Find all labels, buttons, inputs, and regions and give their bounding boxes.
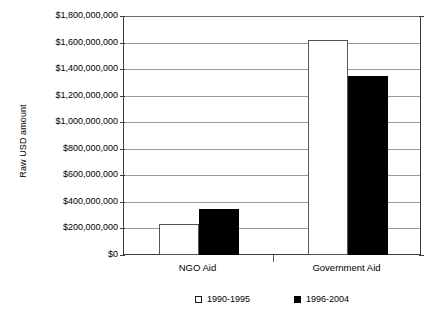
plot-frame-top <box>124 16 420 17</box>
y-axis-tick-mark <box>120 96 125 97</box>
y-axis-tick-label: $0 <box>26 250 118 259</box>
chart-legend: 1990-19951996-2004 <box>123 292 421 306</box>
legend-label: 1990-1995 <box>207 294 250 304</box>
plot-area <box>123 16 421 255</box>
bar-government-aid-1996-2004 <box>348 76 388 255</box>
bar-chart-figure: Raw USD amount $0$200,000,000$400,000,00… <box>0 0 442 317</box>
legend-label: 1996-2004 <box>306 294 349 304</box>
y-axis-tick-label: $200,000,000 <box>26 223 118 232</box>
y-axis-tick-mark <box>120 149 125 150</box>
y-axis-tick-label: $1,600,000,000 <box>26 38 118 47</box>
y-axis-tick-label: $800,000,000 <box>26 144 118 153</box>
x-axis-label-government-aid: Government Aid <box>272 262 421 273</box>
bar-government-aid-1990-1995 <box>308 40 348 255</box>
y-axis-tick-mark-right <box>419 255 424 256</box>
x-axis-category-divider <box>273 255 274 262</box>
gridline <box>124 69 420 70</box>
y-axis-tick-label: $1,800,000,000 <box>26 11 118 20</box>
y-axis-tick-mark-right <box>419 16 424 17</box>
y-axis-tick-label: $400,000,000 <box>26 197 118 206</box>
y-axis-tick-mark <box>120 43 125 44</box>
legend-swatch-icon <box>294 296 301 303</box>
y-axis-tick-label: $1,400,000,000 <box>26 64 118 73</box>
y-axis-tick-label: $1,200,000,000 <box>26 91 118 100</box>
y-axis-tick-mark <box>120 16 125 17</box>
legend-item-1990-1995[interactable]: 1990-1995 <box>195 294 250 304</box>
x-axis-label-ngo-aid: NGO Aid <box>123 262 272 273</box>
y-axis-tick-mark <box>120 228 125 229</box>
bar-ngo-aid-1990-1995 <box>159 224 199 255</box>
y-axis-tick-mark <box>120 255 125 256</box>
y-axis-tick-mark <box>120 69 125 70</box>
y-axis-tick-mark <box>120 122 125 123</box>
y-axis-tick-label: $600,000,000 <box>26 170 118 179</box>
y-axis-tick-label: $1,000,000,000 <box>26 117 118 126</box>
bar-ngo-aid-1996-2004 <box>199 209 239 255</box>
y-axis-tick-mark <box>120 175 125 176</box>
x-axis-tick-labels: NGO AidGovernment Aid <box>123 262 421 276</box>
y-axis-tick-mark <box>120 202 125 203</box>
legend-item-1996-2004[interactable]: 1996-2004 <box>294 294 349 304</box>
y-axis-tick-labels: $0$200,000,000$400,000,000$600,000,000$8… <box>20 0 118 317</box>
gridline <box>124 43 420 44</box>
legend-swatch-icon <box>195 296 202 303</box>
